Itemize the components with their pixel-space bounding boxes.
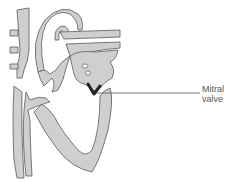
vena-cava (10, 8, 29, 78)
mitral-valve-label-line1: Mitral (202, 84, 224, 94)
pulmonary-vein-opening (86, 71, 91, 75)
left-atrium-wall (70, 50, 118, 92)
pulmonary-vessel-upper (60, 30, 120, 39)
mitral-valve-label: Mitral valve (202, 84, 224, 104)
right-ventricle-wall (23, 92, 50, 176)
pulmonary-vein-opening (82, 64, 88, 68)
mitral-valve-label-line2: valve (202, 94, 224, 104)
inferior-vena-cava (13, 86, 24, 178)
